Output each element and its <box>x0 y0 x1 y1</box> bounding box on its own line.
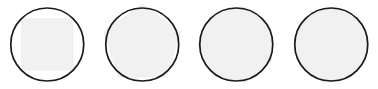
polygon-panel-2: n = 5 <box>95 0 190 89</box>
panel-row: n = 4 n = 5 n = 7 n = 24 <box>0 0 378 89</box>
pentagon-polygon <box>103 4 180 77</box>
panel-4-canvas <box>284 0 378 89</box>
polygon-panel-4: n = 24 <box>284 0 378 89</box>
panel-3-canvas <box>189 0 284 89</box>
panel-2-canvas <box>95 0 190 89</box>
square-polygon <box>21 19 73 71</box>
panel-1-canvas <box>0 0 95 89</box>
polygon-panel-3: n = 7 <box>189 0 284 89</box>
polygon-panel-1: n = 4 <box>0 0 95 89</box>
figure-root: n = 4 n = 5 n = 7 n = 24 <box>0 0 378 89</box>
